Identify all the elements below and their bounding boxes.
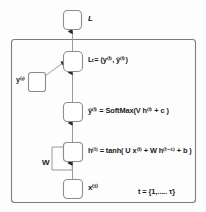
label-target-output: y⁽ᵗ⁾ [16,76,25,83]
loss-total-node[interactable] [64,11,82,30]
h-node[interactable] [64,143,83,162]
label-softmax-equation: ŷ⁽ᵗ⁾ = SoftMax(V h⁽ᵗ⁾ + c ) [88,107,169,114]
label-timestep-range: t = {1,..... τ} [138,188,175,195]
label-recurrent-weight-w: W [42,159,49,167]
yhat-node[interactable] [64,103,83,122]
edge-ytrue-to-losst [45,63,64,77]
loss-t-node[interactable] [64,52,83,72]
label-hidden-state-equation: h⁽ᵗ⁾ = tanh( U x⁽ᵗ⁾ + W h⁽ᵗ⁻¹⁾ + b ) [88,147,192,154]
y-true-node[interactable] [29,73,46,92]
label-input-x: x⁽ᵗ⁾ [88,184,98,192]
label-loss-at-t: Lₜ= (y⁽ᵗ⁾, ŷ⁽ᵗ⁾) [88,56,128,63]
x-node[interactable] [64,180,83,199]
rnn-diagram-canvas: L Lₜ= (y⁽ᵗ⁾, ŷ⁽ᵗ⁾) y⁽ᵗ⁾ ŷ⁽ᵗ⁾ = SoftMax(V… [0,0,206,212]
label-total-loss: L [88,15,93,23]
